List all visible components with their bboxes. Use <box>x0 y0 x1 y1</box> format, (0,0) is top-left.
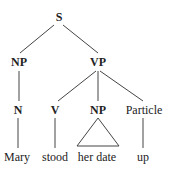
leaf-stood: stood <box>42 151 68 163</box>
edge-s-vp <box>63 25 98 53</box>
node-v: V <box>51 104 60 116</box>
node-n: N <box>14 104 23 116</box>
node-s: S <box>56 11 63 23</box>
edge-vp-v <box>58 71 96 101</box>
leaf-up: up <box>137 151 149 163</box>
np-triangle <box>77 118 119 146</box>
node-np-subject: NP <box>11 56 27 68</box>
edge-s-np <box>20 25 54 53</box>
node-particle: Particle <box>126 104 163 116</box>
leaf-her-date: her date <box>78 151 116 163</box>
node-vp: VP <box>90 56 106 68</box>
leaf-mary: Mary <box>4 151 30 163</box>
tree-edges <box>0 0 169 172</box>
edge-vp-particle <box>100 71 143 101</box>
node-np-object: NP <box>90 104 106 116</box>
